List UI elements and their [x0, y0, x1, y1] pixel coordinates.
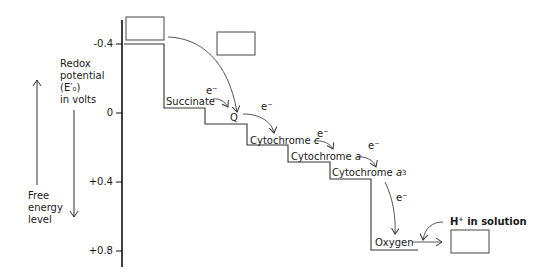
electron-label: e⁻ — [368, 140, 379, 152]
step-cytochrome-a: Cytochrome a — [291, 151, 361, 163]
tick-label: -0.4 — [83, 38, 113, 49]
step-oxygen: Oxygen — [375, 237, 414, 249]
electron-label: e⁻ — [317, 128, 328, 140]
tick-label: +0.4 — [83, 176, 113, 187]
step-q: Q — [230, 112, 238, 124]
step-cytochrome-a3: Cytochrome a3 — [332, 167, 406, 179]
product-box — [451, 230, 489, 253]
tick-label: +0.8 — [83, 245, 113, 256]
axis-title: Redox potential (E′₀) in volts — [60, 58, 104, 106]
step-cytochrome-c: Cytochrome c — [250, 135, 319, 147]
top-left-box — [126, 17, 164, 40]
tick-label: 0 — [83, 107, 113, 118]
electron-label: e⁻ — [206, 85, 217, 97]
free-energy-label: Free energy level — [28, 190, 63, 226]
electron-label: e⁻ — [396, 192, 407, 204]
step-succinate: Succinate — [166, 96, 215, 108]
electron-label: e⁻ — [261, 101, 272, 113]
proton-label: H⁺ in solution — [450, 216, 527, 228]
top-right-box — [217, 32, 255, 55]
